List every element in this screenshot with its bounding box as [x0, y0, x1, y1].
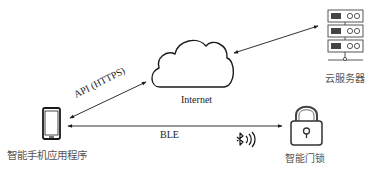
smartphone-icon — [43, 108, 60, 139]
cloud-icon — [152, 40, 233, 87]
architecture-diagram: Internet 云服务器 智能手机应用程序 智能门锁 API (HTTPS) … — [0, 0, 378, 172]
internet-label: Internet — [181, 94, 212, 105]
cloud-server-label: 云服务器 — [325, 70, 365, 85]
server-stack-icon — [328, 10, 363, 61]
padlock-icon — [291, 107, 322, 145]
bluetooth-signal-icon — [237, 132, 255, 147]
cloud-server-arrow — [234, 26, 318, 53]
smart-lock-label: 智能门锁 — [285, 150, 325, 165]
ble-label: BLE — [160, 129, 179, 140]
smartphone-app-label: 智能手机应用程序 — [7, 147, 87, 162]
